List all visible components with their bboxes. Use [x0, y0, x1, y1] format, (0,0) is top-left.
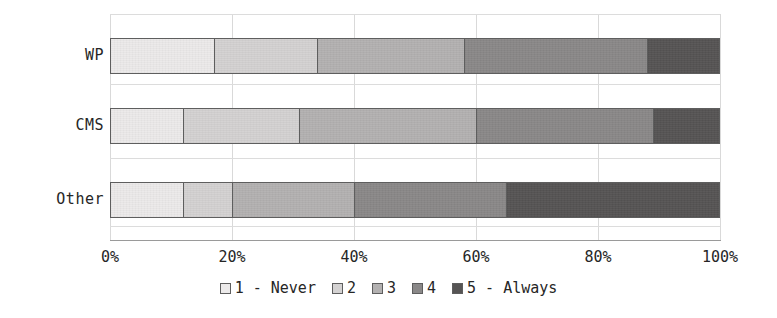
x-axis-baseline: [110, 240, 721, 241]
legend-swatch-icon: [372, 283, 383, 294]
bar-segment: [110, 182, 183, 218]
bar-segment: [232, 182, 354, 218]
bar-segment: [476, 108, 653, 144]
bar-segment: [183, 108, 299, 144]
x-tick-label: 40%: [340, 248, 367, 266]
legend-swatch-icon: [332, 283, 343, 294]
legend-label: 5 - Always: [467, 279, 557, 297]
bar-segment: [214, 38, 318, 74]
x-tick-label: 100%: [702, 248, 738, 266]
y-tick-label-other: Other: [6, 190, 104, 208]
gridline-horizontal: [110, 84, 720, 85]
legend-label: 3: [387, 279, 396, 297]
stacked-bar-chart: WP CMS Other 0%20%40%60%80%100% 1 - Neve…: [0, 0, 777, 318]
x-tick-label: 60%: [462, 248, 489, 266]
plot-area: [110, 14, 720, 240]
y-tick-label-cms: CMS: [6, 116, 104, 134]
x-axis-labels: 0%20%40%60%80%100%: [110, 248, 720, 270]
x-tick-label: 0%: [101, 248, 119, 266]
x-tick-label: 20%: [218, 248, 245, 266]
legend-item[interactable]: 5 - Always: [452, 279, 557, 297]
bar-segment: [299, 108, 476, 144]
legend-item[interactable]: 3: [372, 279, 396, 297]
gridline-horizontal: [110, 158, 720, 159]
y-tick-label-wp: WP: [6, 46, 104, 64]
bar-segment: [464, 38, 647, 74]
legend-swatch-icon: [412, 283, 423, 294]
bar-segment: [647, 38, 720, 74]
legend-item[interactable]: 2: [332, 279, 356, 297]
legend-label: 1 - Never: [235, 279, 316, 297]
legend-swatch-icon: [220, 283, 231, 294]
legend-swatch-icon: [452, 283, 463, 294]
bar-row: [110, 182, 720, 218]
bar-segment: [183, 182, 232, 218]
bar-segment: [110, 38, 214, 74]
bar-segment: [653, 108, 720, 144]
legend-item[interactable]: 1 - Never: [220, 279, 316, 297]
legend-label: 2: [347, 279, 356, 297]
legend-item[interactable]: 4: [412, 279, 436, 297]
chart-legend: 1 - Never2345 - Always: [0, 279, 777, 297]
bar-segment: [317, 38, 463, 74]
bar-segment: [110, 108, 183, 144]
x-tick-label: 80%: [584, 248, 611, 266]
y-axis-labels: WP CMS Other: [0, 14, 104, 240]
gridline-vertical: [720, 14, 721, 240]
gridline-horizontal: [110, 14, 720, 15]
bar-row: [110, 108, 720, 144]
bar-segment: [354, 182, 507, 218]
gridline-horizontal: [110, 226, 720, 227]
bar-segment: [506, 182, 720, 218]
bar-row: [110, 38, 720, 74]
legend-label: 4: [427, 279, 436, 297]
